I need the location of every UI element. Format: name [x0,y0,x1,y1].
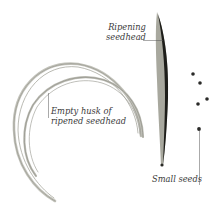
label-line: Small seeds [152,174,202,184]
label-line: seedhead [106,32,146,42]
label-small-seeds: Small seeds [152,174,202,184]
ripening-seedhead [156,12,168,167]
empty-husk [14,64,143,201]
label-line: Ripening [106,22,146,32]
label-empty-husk: Empty husk of ripened seedhead [51,106,126,126]
small-seeds [191,72,209,131]
label-line: ripened seedhead [51,116,126,126]
label-ripening-seedhead: Ripening seedhead [106,22,146,42]
label-line: Empty husk of [51,106,126,116]
